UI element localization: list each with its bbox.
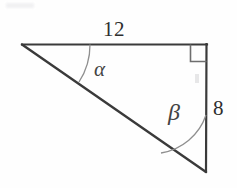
angle-label-beta: β	[168, 100, 180, 124]
side-length-label-top: 12	[103, 19, 125, 40]
right-leg-line	[206, 44, 207, 172]
alpha-angle-arc	[79, 45, 90, 83]
angle-label-alpha: α	[94, 59, 105, 80]
side-length-label-right: 8	[213, 98, 224, 119]
right-angle-square-icon	[191, 45, 207, 62]
geometry-figure: 12 8 α β	[0, 0, 237, 188]
